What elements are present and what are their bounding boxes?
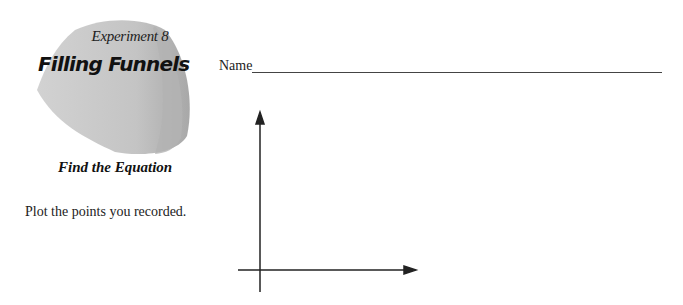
instruction-text: Plot the points you recorded. bbox=[25, 204, 186, 220]
section-subtitle: Find the Equation bbox=[58, 159, 172, 176]
x-axis-arrow-icon bbox=[404, 266, 416, 274]
experiment-label: Experiment 8 bbox=[70, 28, 190, 45]
y-axis-arrow-icon bbox=[256, 112, 264, 124]
blank-graph-axes[interactable] bbox=[230, 108, 430, 298]
name-label: Name bbox=[219, 58, 252, 74]
name-field[interactable] bbox=[252, 72, 662, 73]
page-title: Filling Funnels bbox=[38, 52, 189, 76]
